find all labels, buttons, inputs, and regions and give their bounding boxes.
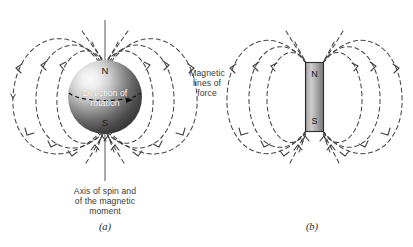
panel-a-caption: (a): [85, 221, 125, 232]
field-label-line-2: lines of: [193, 78, 221, 88]
field-label-line-3: force: [197, 88, 217, 98]
rotation-label-line-2: rotation: [90, 98, 119, 108]
rotation-label-line-1: Direction of: [83, 88, 128, 98]
bar-pole-north-label: N: [311, 69, 318, 79]
spin-axis-label: Axis of spin andof the magneticmoment: [53, 186, 157, 217]
axis-label-line-1: Axis of spin and: [74, 186, 136, 196]
rotation-direction-label: Direction ofrotation: [63, 88, 147, 109]
magnetic-field-figure: N S: [0, 0, 413, 247]
bar-pole-south-label: S: [311, 116, 317, 126]
magnetic-lines-of-force-label: Magneticlines offorce: [180, 68, 234, 99]
field-label-line-1: Magnetic: [189, 68, 225, 78]
axis-label-line-2: of the magnetic: [75, 196, 135, 206]
sphere-pole-north-label: N: [102, 65, 109, 76]
sphere-pole-south-label: S: [102, 117, 108, 128]
axis-label-line-3: moment: [89, 206, 121, 216]
panel-b-caption: (b): [292, 221, 332, 232]
